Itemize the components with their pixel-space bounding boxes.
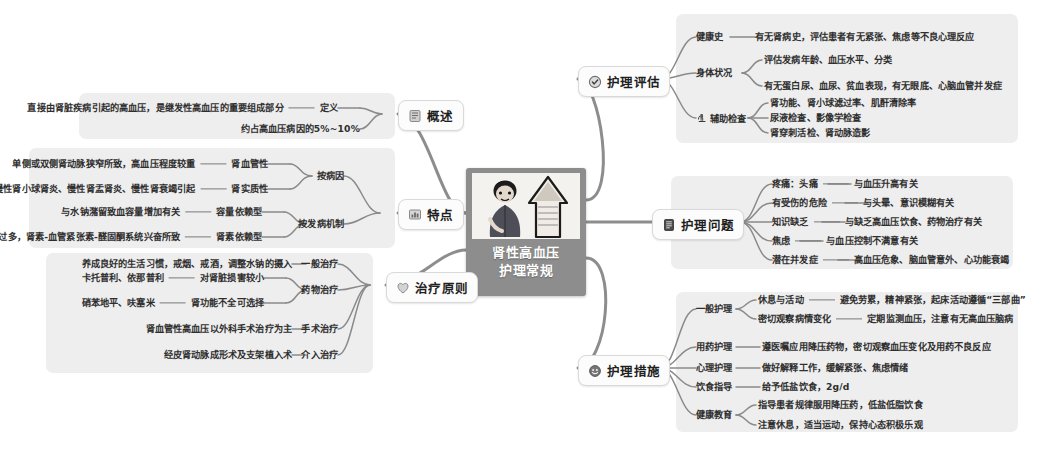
dash bbox=[823, 259, 849, 260]
group-key: 一般护理 bbox=[696, 303, 733, 314]
leaf-detail: 与血压升高有关 bbox=[854, 178, 918, 189]
root-illustration bbox=[472, 173, 580, 239]
chart-icon bbox=[408, 208, 422, 222]
group-label-cuoshi-0: 一般护理 bbox=[696, 304, 733, 313]
leaf-detail: 指导患者规律服用降压药，低盐低脂饮食 bbox=[758, 399, 923, 410]
group-label-pinggu-0: 健康史 bbox=[696, 32, 723, 41]
leaf-detail: 高血压危象、脑血管意外、心功能衰竭 bbox=[854, 254, 1010, 265]
leaf-cuoshi-1-0: 遵医嘱应用降压药物，密切观察血压变化及用药不良反应 bbox=[762, 342, 991, 351]
root-title: 肾性高血压 护理常规 bbox=[492, 244, 560, 279]
dash bbox=[832, 202, 858, 203]
leaf-detail: 与水钠潴留致血容量增加有关 bbox=[61, 206, 180, 217]
group-key: 手术治疗 bbox=[301, 323, 338, 334]
leaf-key: 肾血管性 bbox=[231, 158, 268, 169]
dash bbox=[814, 221, 840, 222]
branch-node-cuoshi[interactable]: 护理措施 bbox=[578, 355, 670, 386]
leaf-detail: 养成良好的生活习惯，戒烟、戒酒，调整水钠的摄入 bbox=[82, 258, 292, 269]
leaf-cuoshi-2-0: 做好解释工作，缓解紧张、焦虑情绪 bbox=[762, 363, 908, 372]
leaf-gaishu-1: 约占高血压病因的5%~10% bbox=[241, 124, 360, 133]
branch-node-zhiliao[interactable]: 治疗原则 bbox=[386, 272, 478, 303]
mindmap-canvas: 肾性高血压 护理常规 概述 特点 治疗原则 护理评估 护理问题 bbox=[0, 0, 1042, 472]
root-title-line2: 护理常规 bbox=[492, 262, 560, 280]
check-circle-icon bbox=[588, 75, 602, 89]
leaf-detail: 经皮肾动脉成形术及支架植入术 bbox=[164, 349, 292, 360]
group-label-zhiliao-2: 手术治疗 bbox=[301, 324, 338, 333]
leaf-cuoshi-4-1: 注意休息，适当运动，保持心态积极乐观 bbox=[758, 420, 923, 429]
leaf-key: 知识缺乏 bbox=[772, 216, 809, 227]
leaf-detail: 注意休息，适当运动，保持心态积极乐观 bbox=[758, 419, 923, 430]
dash bbox=[836, 318, 862, 319]
leaf-detail: 肾素分泌过多，肾素-血管紧张素-醛固酮系统兴奋所致 bbox=[0, 231, 180, 242]
group-label-cuoshi-1: 用药护理 bbox=[696, 342, 733, 351]
group-key: 介入治疗 bbox=[301, 349, 338, 360]
leaf-key: 焦虑 bbox=[772, 235, 790, 246]
leaf-detail: 做好解释工作，缓解紧张、焦虑情绪 bbox=[762, 362, 908, 373]
dash bbox=[795, 240, 821, 241]
leaf-detail: 对肾脏损害较小 bbox=[200, 272, 264, 283]
leaf-detail: 定期监测血压，注意有无高血压脑病 bbox=[867, 313, 1013, 324]
group-key: 辅助检查 bbox=[710, 113, 747, 122]
leaf-detail: 肾穿刺活检、肾动脉造影 bbox=[770, 127, 871, 138]
leaf-pinggu-2-1: 尿液检查、影像学检查 bbox=[770, 113, 862, 122]
root-title-line1: 肾性高血压 bbox=[492, 244, 560, 262]
group-key: 一般治疗 bbox=[301, 258, 338, 269]
leaf-key: 肾素依赖型 bbox=[216, 231, 262, 242]
group-key: 药物治疗 bbox=[301, 284, 338, 295]
leaf-key: 硝苯地平、呋塞米 bbox=[82, 297, 155, 308]
branch-label-gaishu: 概述 bbox=[427, 106, 454, 125]
leaf-tedian-1-0: 与水钠潴留致血容量增加有关容量依赖型 bbox=[61, 207, 262, 216]
leaf-detail: 与缺乏高血压饮食、药物治疗有关 bbox=[845, 216, 982, 227]
group-key: 身体状况 bbox=[696, 67, 733, 78]
group-key: 用药护理 bbox=[696, 341, 733, 352]
group-label-cuoshi-4: 健康教育 bbox=[696, 410, 733, 419]
leaf-key: 容量依赖型 bbox=[216, 206, 262, 217]
leaf-zhiliao-3-0: 经皮肾动脉成形术及支架植入术 bbox=[164, 350, 292, 359]
leaf-detail: 评估发病年龄、血压水平、分类 bbox=[764, 54, 892, 65]
leaf-gaishu-0: 直接由肾脏疾病引起的高血压，是继发性高血压的重要组成部分定义 bbox=[27, 103, 338, 112]
dash bbox=[169, 277, 195, 278]
leaf-key: 密切观察病情变化 bbox=[758, 313, 831, 324]
group-key: 健康教育 bbox=[696, 409, 733, 420]
leaf-detail: 避免劳累，精神紧张，起床活动遵循“三部曲” bbox=[840, 294, 1026, 305]
leaf-wenti-1: 有受伤的危险与头晕、意识模糊有关 bbox=[772, 198, 954, 207]
leaf-key: 肾实质性 bbox=[231, 183, 268, 194]
branch-node-gaishu[interactable]: 概述 bbox=[398, 100, 464, 131]
leaf-detail: 与头晕、意识模糊有关 bbox=[863, 197, 955, 208]
leaf-wenti-4: 潜在并发症高血压危象、脑血管意外、心功能衰竭 bbox=[772, 255, 1009, 264]
leaf-tedian-0-0: 单侧或双侧肾动脉狭窄所致，高血压程度较重肾血管性 bbox=[12, 159, 268, 168]
branch-node-pinggu[interactable]: 护理评估 bbox=[578, 66, 670, 97]
leaf-detail: 急性或慢性肾小球肾炎、慢性肾盂肾炎、慢性肾衰竭引起 bbox=[0, 183, 195, 194]
dash bbox=[289, 107, 315, 108]
group-label-pinggu-2: 辅助检查 bbox=[696, 113, 747, 124]
branch-label-pinggu: 护理评估 bbox=[607, 72, 660, 91]
microscope-icon bbox=[696, 113, 707, 124]
leaf-detail: 肾功能不全可选择 bbox=[191, 297, 264, 308]
leaf-pinggu-2-0: 肾功能、肾小球滤过率、肌酐清除率 bbox=[770, 98, 916, 107]
branch-node-wenti[interactable]: 护理问题 bbox=[652, 209, 744, 240]
leaf-detail: 有无蛋白尿、血尿、贫血表现，有无眼底、心脑血管并发症 bbox=[764, 80, 1002, 91]
group-label-zhiliao-3: 介入治疗 bbox=[301, 350, 338, 359]
branch-node-tedian[interactable]: 特点 bbox=[398, 199, 464, 230]
leaf-detail: 给予低盐饮食，2g/d bbox=[762, 381, 850, 392]
leaf-cuoshi-4-0: 指导患者规律服用降压药，低盐低脂饮食 bbox=[758, 400, 923, 409]
leaf-detail: 肾功能、肾小球滤过率、肌酐清除率 bbox=[770, 97, 916, 108]
leaf-wenti-0: 疼痛：头痛与血压升高有关 bbox=[772, 179, 918, 188]
group-key: 按病因 bbox=[317, 170, 344, 181]
group-label-pinggu-1: 身体状况 bbox=[696, 68, 733, 77]
group-key: 饮食指导 bbox=[696, 381, 733, 392]
dash bbox=[809, 299, 835, 300]
leaf-wenti-3: 焦虑与血压控制不满意有关 bbox=[772, 236, 918, 245]
root-node[interactable]: 肾性高血压 护理常规 bbox=[466, 168, 586, 296]
leaf-detail: 肾血管性高血压以外科手术治疗为主 bbox=[146, 323, 292, 334]
dash bbox=[185, 211, 211, 212]
dash bbox=[823, 183, 849, 184]
leaf-detail: 尿液检查、影像学检查 bbox=[770, 112, 862, 123]
leaf-cuoshi-0-0: 休息与活动避免劳累，精神紧张，起床活动遵循“三部曲” bbox=[758, 295, 1026, 304]
leaf-key: 约占高血压病因的5%~10% bbox=[241, 123, 360, 134]
leaf-pinggu-1-1: 有无蛋白尿、血尿、贫血表现，有无眼底、心脑血管并发症 bbox=[764, 81, 1002, 90]
group-label-zhiliao-0: 一般治疗 bbox=[301, 259, 338, 268]
dash bbox=[200, 188, 226, 189]
leaf-detail: 遵医嘱应用降压药物，密切观察血压变化及用药不良反应 bbox=[762, 341, 991, 352]
book-icon bbox=[408, 109, 422, 123]
branch-label-zhiliao: 治疗原则 bbox=[415, 278, 468, 297]
